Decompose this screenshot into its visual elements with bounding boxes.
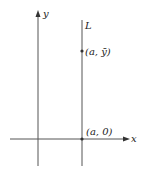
point-a-0: [80, 137, 83, 140]
point-a-ybar-label: (a, ȳ): [85, 46, 111, 57]
y-axis-label: y: [42, 8, 49, 19]
line-l-label: L: [84, 20, 92, 31]
x-axis-arrow-icon: [123, 137, 130, 142]
diagram-canvas: x y L (a, ȳ) (a, 0): [0, 0, 145, 178]
point-a-0-label: (a, 0): [86, 126, 113, 137]
y-axis-arrow-icon: [36, 10, 41, 17]
x-axis-label: x: [131, 133, 137, 144]
point-a-ybar: [80, 49, 83, 52]
